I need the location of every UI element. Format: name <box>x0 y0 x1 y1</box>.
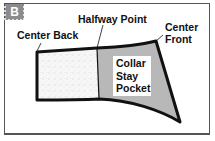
pocket-line2: Stay <box>116 70 151 83</box>
center-front-label: Center Front <box>165 21 198 45</box>
panel-letter: B <box>5 4 24 20</box>
center-back-leader <box>37 43 41 51</box>
pocket-line3: Pocket <box>116 82 151 95</box>
center-front-line2: Front <box>165 33 198 45</box>
center-back-label: Center Back <box>17 30 78 41</box>
center-front-leader <box>156 35 163 41</box>
pocket-line1: Collar <box>116 57 151 70</box>
halfway-point-leader <box>97 25 103 48</box>
collar-stay-pocket-label: Collar Stay Pocket <box>113 56 151 96</box>
panel-badge: B <box>5 4 24 20</box>
halfway-point-label: Halfway Point <box>78 14 147 25</box>
back-half-region <box>37 48 99 100</box>
center-front-line1: Center <box>165 21 198 33</box>
